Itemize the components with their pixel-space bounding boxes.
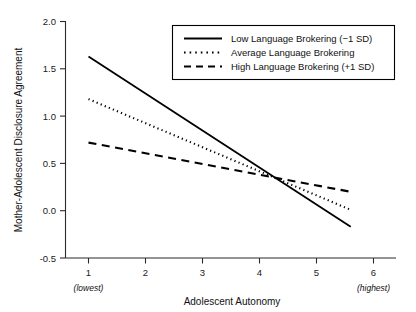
x-axis-highest-label: (highest): [357, 283, 390, 293]
series-line-low-language-brokering: [89, 57, 351, 227]
y-tick-label: 1.5: [43, 63, 56, 74]
series-line-average-language-brokering: [89, 99, 351, 210]
x-axis-title: Adolescent Autonomy: [184, 296, 281, 307]
x-tick-label: 1: [86, 267, 91, 278]
y-tick-label: 2.0: [43, 16, 56, 27]
y-tick-label: 0.0: [43, 205, 56, 216]
line-chart: 2.0 1.5 1.0 0.5 0.0 -0.5 1 2 3 4 5 6 (lo…: [0, 0, 416, 312]
series-line-high-language-brokering: [89, 143, 351, 192]
chart-figure: 2.0 1.5 1.0 0.5 0.0 -0.5 1 2 3 4 5 6 (lo…: [0, 0, 416, 312]
y-axis-title: Mother-Adolescent Disclosure Agreement: [13, 48, 24, 233]
x-tick-label: 3: [200, 267, 205, 278]
x-tick-label: 4: [257, 267, 262, 278]
y-tick-label: 0.5: [43, 158, 56, 169]
legend-label-high: High Language Brokering (+1 SD): [231, 61, 374, 72]
x-tick-label: 5: [314, 267, 319, 278]
x-axis-tick-labels: 1 2 3 4 5 6: [86, 267, 376, 278]
y-axis-tick-labels: 2.0 1.5 1.0 0.5 0.0 -0.5: [40, 16, 56, 264]
x-axis-lowest-label: (lowest): [74, 283, 104, 293]
x-tick-label: 2: [143, 267, 148, 278]
x-tick-label: 6: [371, 267, 376, 278]
y-tick-label: 1.0: [43, 111, 56, 122]
y-tick-label: -0.5: [40, 253, 56, 264]
legend-label-average: Average Language Brokering: [231, 47, 354, 58]
chart-legend: Low Language Brokering (−1 SD) Average L…: [173, 26, 395, 80]
legend-label-low: Low Language Brokering (−1 SD): [231, 33, 372, 44]
x-axis-ticks: [89, 258, 374, 264]
y-axis-ticks: [60, 22, 66, 259]
